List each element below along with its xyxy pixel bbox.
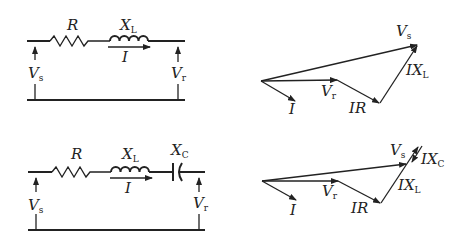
- vs-label: Vs: [28, 196, 44, 215]
- ixc-label: IXC: [420, 150, 445, 169]
- current-phasor: [261, 81, 295, 101]
- rlc-phasor-diagram: Vs IXC Vr I IR IXL: [262, 141, 445, 219]
- vr-phasor: [261, 80, 337, 81]
- ixl-label: IXL: [405, 61, 429, 80]
- vr-label: Vr: [322, 182, 338, 201]
- resistor-symbol: [50, 36, 110, 46]
- rlc-circuit: R XL XC I Vs Vr: [28, 141, 209, 230]
- inductor-symbol: [111, 167, 149, 172]
- vs-phasor: [262, 164, 406, 181]
- resistor-label: R: [66, 16, 78, 34]
- inductor-label: XL: [119, 16, 137, 35]
- vs-label: Vs: [390, 141, 406, 160]
- resistor-symbol: [52, 167, 111, 177]
- vr-label: Vr: [321, 82, 337, 101]
- vs-phasor: [261, 45, 417, 81]
- current-label: I: [121, 48, 129, 66]
- current-label: I: [289, 201, 297, 219]
- diagram-canvas: R XL I Vs Vr R XL XC I Vs Vr Vs Vr I: [0, 0, 464, 241]
- current-phasor: [262, 181, 296, 200]
- capacitor-label: XC: [170, 141, 189, 160]
- current-label: I: [288, 100, 296, 118]
- vr-label: Vr: [171, 64, 187, 83]
- ir-label: IR: [348, 99, 366, 117]
- rl-circuit: R XL I Vs Vr: [27, 16, 187, 100]
- ir-label: IR: [350, 199, 368, 217]
- vs-label: Vs: [396, 22, 412, 41]
- rl-phasor-diagram: Vs Vr I IR IXL: [261, 22, 429, 118]
- vr-label: Vr: [193, 194, 209, 213]
- ixl-label: IXL: [397, 176, 421, 195]
- inductor-symbol: [110, 36, 148, 41]
- current-label: I: [124, 179, 132, 197]
- resistor-label: R: [70, 145, 82, 163]
- inductor-label: XL: [121, 145, 139, 164]
- vs-label: Vs: [28, 64, 44, 83]
